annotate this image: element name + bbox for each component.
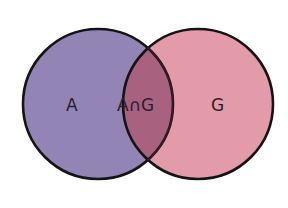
intersection-label: A∩G	[117, 95, 154, 115]
set-a-label: A	[66, 95, 78, 115]
venn-diagram: A A∩G G	[0, 0, 288, 208]
set-g-label: G	[211, 95, 224, 115]
